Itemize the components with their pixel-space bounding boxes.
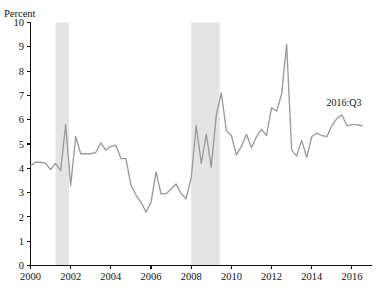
recession-2008-band <box>191 23 220 266</box>
y-tick-label: 5 <box>19 139 24 150</box>
chart-canvas: 012345678910 200020022004200620082010201… <box>0 0 382 290</box>
y-tick-label: 0 <box>19 260 24 271</box>
x-tick-label: 2014 <box>301 271 323 282</box>
y-tick-label: 3 <box>19 187 24 198</box>
y-tick-label: 4 <box>19 163 25 174</box>
y-axis-title: Percent <box>4 8 36 19</box>
y-tick-label: 7 <box>19 90 24 101</box>
chart-annotations: 2016:Q3 <box>326 97 361 108</box>
x-tick-label: 2008 <box>181 271 202 282</box>
x-tick-label: 2000 <box>20 271 41 282</box>
y-tick-label: 6 <box>19 114 24 125</box>
y-tick-label: 9 <box>19 41 24 52</box>
x-tick-label: 2002 <box>60 271 81 282</box>
y-tick-label: 2 <box>19 212 24 223</box>
y-tick-label: 1 <box>19 236 24 247</box>
x-tick-label: 2006 <box>141 271 162 282</box>
x-tick-label: 2004 <box>100 271 122 282</box>
x-tick-label: 2016 <box>341 271 362 282</box>
x-tick-label: 2010 <box>221 271 242 282</box>
x-tick-label: 2012 <box>261 271 282 282</box>
y-tick-label: 8 <box>19 66 24 77</box>
annotation-label: 2016:Q3 <box>326 97 361 108</box>
chart-figure: 012345678910 200020022004200620082010201… <box>0 0 382 290</box>
